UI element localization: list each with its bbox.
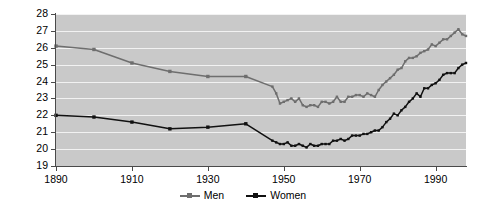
y-tick-label: 27	[36, 24, 48, 37]
y-tick-mark	[51, 14, 55, 15]
data-point	[286, 141, 288, 143]
data-point	[279, 102, 281, 104]
data-point	[408, 101, 410, 103]
legend-item-women[interactable]: Women	[246, 189, 306, 202]
x-tick-label: 1890	[44, 173, 67, 186]
y-tick-label: 23	[36, 91, 48, 104]
data-point	[450, 72, 452, 74]
data-point	[309, 104, 311, 106]
data-point	[359, 134, 361, 136]
data-point	[355, 134, 357, 136]
data-point	[294, 101, 296, 103]
data-point	[328, 143, 330, 145]
data-point	[434, 45, 436, 47]
data-point	[374, 129, 376, 131]
data-point	[396, 114, 398, 116]
data-point	[442, 74, 444, 76]
y-tick-mark	[51, 98, 55, 99]
data-point	[168, 70, 171, 73]
data-point	[244, 75, 247, 78]
data-point	[130, 120, 133, 123]
y-tick: 27	[0, 31, 55, 32]
data-point	[385, 121, 387, 123]
data-point	[336, 139, 338, 141]
data-point	[313, 145, 315, 147]
series-women	[54, 62, 467, 149]
data-point	[465, 62, 467, 64]
data-point	[377, 129, 379, 131]
data-point	[412, 57, 414, 59]
data-point	[419, 52, 421, 54]
y-tick-label: 28	[36, 7, 48, 20]
x-tick-label: 1990	[424, 173, 447, 186]
data-point	[389, 77, 391, 79]
data-point	[343, 101, 345, 103]
data-point	[465, 35, 467, 37]
data-point	[271, 85, 273, 87]
data-point	[275, 141, 277, 143]
x-tick-mark	[208, 166, 209, 171]
data-point	[461, 63, 463, 65]
data-point	[453, 72, 455, 74]
data-point	[400, 67, 402, 69]
data-point	[328, 102, 330, 104]
data-point	[305, 106, 307, 108]
data-point	[343, 139, 345, 141]
data-point	[415, 92, 417, 94]
series-line	[56, 63, 466, 147]
data-point	[332, 101, 334, 103]
data-point	[362, 96, 364, 98]
data-point	[442, 38, 444, 40]
x-tick-mark	[56, 166, 57, 171]
y-tick-mark	[51, 65, 55, 66]
data-point	[438, 79, 440, 81]
data-point	[415, 55, 417, 57]
data-point	[366, 133, 368, 135]
y-tick-mark	[51, 31, 55, 32]
data-point	[438, 42, 440, 44]
y-tick-label: 20	[36, 142, 48, 155]
data-point	[290, 97, 292, 99]
y-tick-mark	[51, 132, 55, 133]
data-point	[377, 89, 379, 91]
data-point	[244, 122, 247, 125]
x-tick-mark	[284, 166, 285, 171]
data-point	[389, 118, 391, 120]
data-point	[412, 97, 414, 99]
data-point	[396, 69, 398, 71]
legend-marker-icon	[246, 191, 266, 200]
data-point	[309, 143, 311, 145]
data-point	[130, 61, 133, 64]
y-tick-label: 26	[36, 41, 48, 54]
data-point	[168, 127, 171, 130]
data-point	[423, 50, 425, 52]
data-point	[450, 35, 452, 37]
y-tick-mark	[51, 82, 55, 83]
data-point	[92, 115, 95, 118]
y-tick: 24	[0, 82, 55, 83]
data-point	[340, 138, 342, 140]
chart-legend: MenWomen	[0, 186, 486, 205]
data-point	[324, 101, 326, 103]
data-point	[340, 101, 342, 103]
data-point	[362, 133, 364, 135]
data-point	[381, 126, 383, 128]
y-tick-mark	[51, 115, 55, 116]
chart-container: 19202122232425262728 1890191019301950197…	[0, 0, 486, 205]
data-point	[290, 145, 292, 147]
data-point	[321, 143, 323, 145]
data-point	[206, 125, 209, 128]
data-point	[92, 48, 95, 51]
data-point	[305, 146, 307, 148]
data-point	[298, 97, 300, 99]
legend-label: Men	[204, 189, 224, 202]
series-line	[56, 29, 466, 107]
data-point	[359, 94, 361, 96]
data-point	[294, 145, 296, 147]
data-point	[366, 92, 368, 94]
legend-item-men[interactable]: Men	[180, 189, 224, 202]
y-tick: 26	[0, 48, 55, 49]
data-point	[317, 145, 319, 147]
data-point	[283, 101, 285, 103]
data-point	[400, 109, 402, 111]
